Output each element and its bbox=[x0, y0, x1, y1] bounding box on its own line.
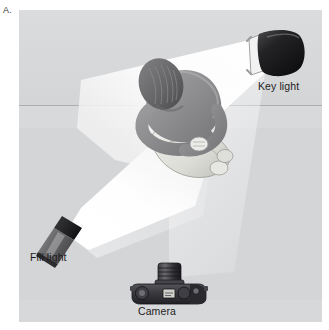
camera-label: Camera bbox=[138, 305, 176, 317]
camera-lcd-panel bbox=[163, 289, 175, 298]
camera-shutter-dial bbox=[178, 287, 190, 299]
panel-letter: A. bbox=[3, 5, 12, 16]
figure-root: A. bbox=[0, 0, 329, 330]
subject-foot-left bbox=[210, 161, 228, 175]
key-light-fixture bbox=[237, 27, 309, 87]
subject-seated-person bbox=[113, 48, 243, 188]
lighting-diagram-panel: Key light Fill light Camera bbox=[19, 10, 322, 322]
camera-rewind-dial-inner bbox=[139, 290, 145, 296]
camera-strap-lug-left bbox=[130, 286, 134, 291]
key-light-label: Key light bbox=[258, 80, 299, 92]
fill-light-label: Fill light bbox=[30, 251, 67, 263]
camera-shutter-button bbox=[193, 288, 199, 294]
subject-hands bbox=[190, 137, 208, 151]
subject-foot-right bbox=[217, 150, 233, 163]
camera-strap-lug-right bbox=[204, 286, 208, 291]
